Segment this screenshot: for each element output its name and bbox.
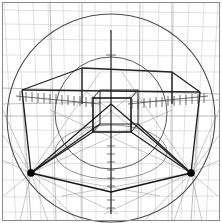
figure-canvas [0, 0, 222, 223]
perspective-diagram-svg [0, 0, 222, 223]
node-right[interactable] [187, 169, 195, 177]
node-left[interactable] [27, 169, 35, 177]
